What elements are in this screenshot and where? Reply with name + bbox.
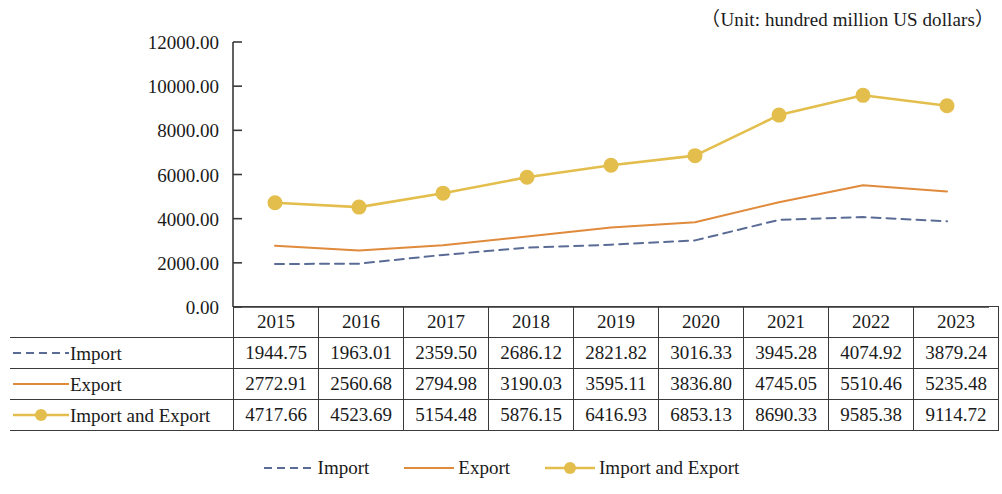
data-point-marker — [352, 200, 367, 215]
table-cell: 2359.50 — [404, 338, 489, 369]
data-point-marker — [268, 195, 283, 210]
legend-item[interactable]: Import and Export — [544, 458, 739, 477]
legend-swatch-circle-marker — [35, 409, 47, 421]
table-row-header: Import and Export — [10, 400, 234, 431]
table-column-header: 2017 — [404, 307, 489, 338]
legend-item[interactable]: Export — [403, 458, 510, 477]
table-row: Import and Export4717.664523.695154.4858… — [10, 400, 999, 431]
data-table: 201520162017201820192020202120222023Impo… — [10, 306, 999, 431]
series-line-import-and-export — [275, 95, 947, 207]
legend-swatch-icon — [403, 460, 455, 476]
table-cell: 4745.05 — [744, 369, 829, 400]
table-cell: 3595.11 — [574, 369, 659, 400]
table-header-row: 201520162017201820192020202120222023 — [10, 307, 999, 338]
row-header-content: Import — [10, 338, 233, 368]
data-point-marker — [520, 170, 535, 185]
table-cell: 2686.12 — [489, 338, 574, 369]
table-cell: 2794.98 — [404, 369, 489, 400]
chart-canvas: 0.002000.004000.006000.008000.0010000.00… — [0, 30, 1002, 315]
legend-label: Import — [318, 458, 370, 477]
series-swatch-icon — [12, 346, 70, 360]
table-cell: 5154.48 — [404, 400, 489, 431]
series-name-label: Import — [70, 344, 122, 363]
table-cell: 1963.01 — [319, 338, 404, 369]
table-column-header: 2019 — [574, 307, 659, 338]
y-axis-tick-label: 2000.00 — [157, 253, 219, 274]
data-point-marker — [772, 108, 787, 123]
table-cell: 5235.48 — [914, 369, 999, 400]
table-cell: 5876.15 — [489, 400, 574, 431]
table-row-header: Import — [10, 338, 234, 369]
table-cell: 3945.28 — [744, 338, 829, 369]
row-header-content: Export — [10, 369, 233, 399]
table-cell: 4717.66 — [234, 400, 319, 431]
series-swatch-icon — [12, 377, 70, 391]
data-point-marker — [604, 158, 619, 173]
table-column-header: 2021 — [744, 307, 829, 338]
table-cell: 6853.13 — [659, 400, 744, 431]
chart-legend: ImportExportImport and Export — [0, 458, 1002, 477]
table-column-header: 2022 — [829, 307, 914, 338]
y-axis-tick-label: 6000.00 — [157, 165, 219, 186]
table-cell: 4074.92 — [829, 338, 914, 369]
table-cell: 6416.93 — [574, 400, 659, 431]
series-name-label: Import and Export — [70, 406, 210, 425]
table-column-header: 2020 — [659, 307, 744, 338]
table-row-header: Export — [10, 369, 234, 400]
series-line-import — [275, 217, 947, 264]
data-point-marker — [940, 98, 955, 113]
legend-label: Export — [458, 458, 510, 477]
legend-swatch-icon — [263, 460, 315, 476]
y-axis-tick-label: 10000.00 — [148, 76, 219, 97]
table-cell: 9114.72 — [914, 400, 999, 431]
data-point-marker — [436, 186, 451, 201]
table-body: 201520162017201820192020202120222023Impo… — [10, 307, 999, 431]
table-column-header: 2015 — [234, 307, 319, 338]
table-cell: 3879.24 — [914, 338, 999, 369]
legend-label: Import and Export — [599, 458, 739, 477]
y-axis-tick-label: 12000.00 — [148, 32, 219, 53]
table-corner-cell — [10, 307, 234, 338]
line-chart: 0.002000.004000.006000.008000.0010000.00… — [0, 30, 1002, 315]
legend-item[interactable]: Import — [263, 458, 370, 477]
row-header-content: Import and Export — [10, 400, 233, 430]
table-column-header: 2018 — [489, 307, 574, 338]
legend-swatch-icon — [544, 460, 596, 476]
data-point-marker — [688, 148, 703, 163]
table-cell: 8690.33 — [744, 400, 829, 431]
series-swatch-icon — [12, 408, 70, 422]
table-column-header: 2023 — [914, 307, 999, 338]
y-axis-tick-label: 4000.00 — [157, 209, 219, 230]
table-cell: 2772.91 — [234, 369, 319, 400]
table-cell: 2821.82 — [574, 338, 659, 369]
y-axis-tick-label: 8000.00 — [157, 120, 219, 141]
table-row: Export2772.912560.682794.983190.033595.1… — [10, 369, 999, 400]
series-name-label: Export — [70, 375, 122, 394]
table-cell: 3016.33 — [659, 338, 744, 369]
table-cell: 3836.80 — [659, 369, 744, 400]
table-cell: 4523.69 — [319, 400, 404, 431]
table-column-header: 2016 — [319, 307, 404, 338]
table-row: Import1944.751963.012359.502686.122821.8… — [10, 338, 999, 369]
unit-caption: （Unit: hundred million US dollars） — [701, 4, 994, 31]
legend-swatch-circle-marker — [564, 462, 576, 474]
table-cell: 2560.68 — [319, 369, 404, 400]
data-point-marker — [856, 88, 871, 103]
table-cell: 1944.75 — [234, 338, 319, 369]
table-cell: 5510.46 — [829, 369, 914, 400]
table-cell: 3190.03 — [489, 369, 574, 400]
table-cell: 9585.38 — [829, 400, 914, 431]
